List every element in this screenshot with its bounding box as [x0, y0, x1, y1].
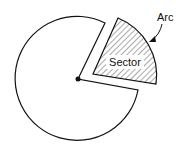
sector-diagram: Sector Arc: [0, 0, 190, 148]
arc-label: Arc: [157, 11, 174, 23]
center-point: [76, 77, 81, 82]
arc-pointer-arrow: [149, 24, 162, 42]
sector-label: Sector: [109, 56, 141, 68]
